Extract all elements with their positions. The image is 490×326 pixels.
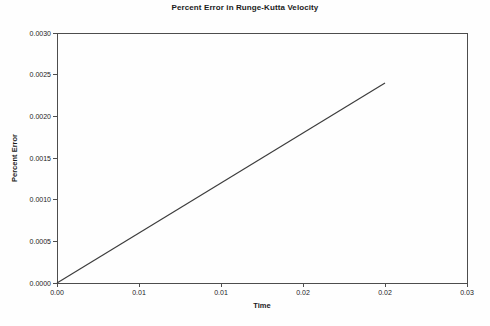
y-tick-label: 0.0015 (30, 155, 52, 162)
y-tick-label: 0.0030 (30, 30, 52, 37)
x-tick-label: 0.01 (132, 289, 146, 296)
y-tick-label: 0.0020 (30, 113, 52, 120)
y-tick-label: 0.0025 (30, 71, 52, 78)
data-line (57, 83, 385, 283)
x-tick-label: 0.01 (214, 289, 228, 296)
x-tick-label: 0.00 (50, 289, 64, 296)
y-tick-label: 0.0010 (30, 196, 52, 203)
x-tick-label: 0.02 (296, 289, 310, 296)
x-tick-label: 0.03 (460, 289, 474, 296)
x-tick-label: 0.02 (378, 289, 392, 296)
y-tick-label: 0.0000 (30, 280, 52, 287)
chart-figure: Percent Error in Runge-Kutta Velocity Pe… (0, 0, 490, 326)
y-tick-label: 0.0005 (30, 238, 52, 245)
x-axis-title: Time (57, 301, 467, 310)
chart-plot: 0.000.010.010.020.020.030.00000.00050.00… (0, 0, 490, 326)
